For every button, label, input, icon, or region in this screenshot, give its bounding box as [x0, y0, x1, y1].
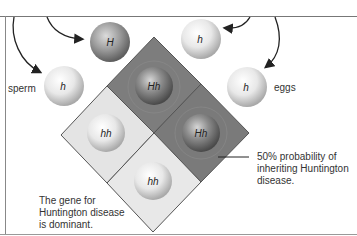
svg-text:h: h: [243, 82, 249, 93]
svg-text:hh: hh: [147, 176, 159, 187]
svg-text:Hh: Hh: [195, 128, 208, 139]
svg-text:hh: hh: [100, 128, 112, 139]
gamete-egg-top: h: [181, 19, 221, 59]
probability-note: 50% probability of inheriting Huntington…: [257, 151, 349, 187]
svg-text:Hh: Hh: [148, 81, 161, 92]
gamete-sperm-left: h: [44, 66, 84, 106]
eggs-label: eggs: [274, 82, 296, 94]
sperm-label: sperm: [8, 83, 36, 95]
svg-text:H: H: [106, 37, 114, 48]
offspring-left: hh: [87, 114, 125, 152]
offspring-right: Hh: [182, 114, 220, 152]
svg-text:h: h: [197, 34, 203, 45]
arrow-to-egg-right: [266, 17, 279, 67]
offspring-bottom: hh: [134, 162, 172, 200]
gamete-egg-right: h: [227, 67, 267, 107]
arrow-to-sperm-top: [47, 17, 82, 39]
svg-text:h: h: [60, 81, 66, 92]
arrow-to-sperm-left: [13, 17, 40, 72]
gamete-sperm-top: H: [90, 22, 130, 62]
dominant-note: The gene for Huntington disease is domin…: [39, 195, 125, 231]
offspring-top: Hh: [135, 67, 173, 105]
punnett-square-diagram: H h h h Hh Hh hh hh: [0, 0, 357, 236]
arrow-to-egg-top: [225, 17, 250, 28]
